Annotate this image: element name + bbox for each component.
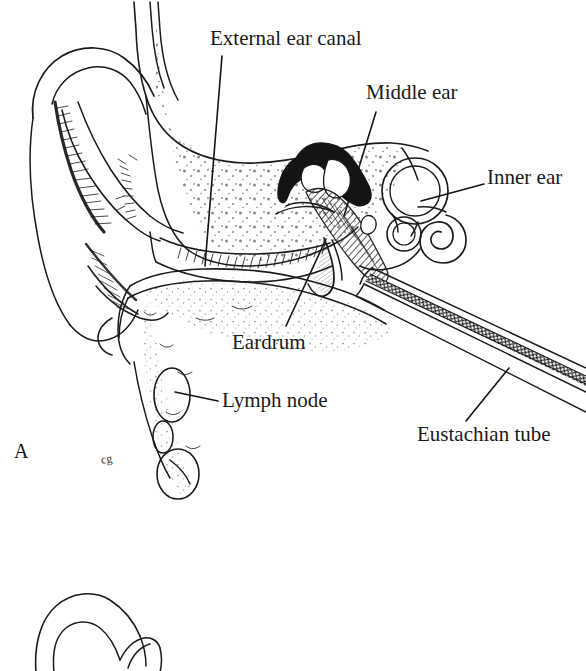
- label-eustachian-tube: Eustachian tube: [417, 424, 551, 445]
- inner-ear-leader: [421, 184, 484, 201]
- eustachian-tube-leader: [466, 368, 509, 421]
- label-external-ear-canal: External ear canal: [210, 28, 362, 49]
- eustachian-tube: [356, 268, 586, 412]
- label-lymph-node: Lymph node: [222, 390, 328, 411]
- second-figure-partial: [36, 594, 162, 671]
- label-eardrum: Eardrum: [232, 332, 305, 353]
- ear-anatomy-figure: External ear canal Middle ear Inner ear …: [0, 0, 586, 671]
- stray-scan-mark: cg: [100, 451, 113, 467]
- mastoid-process: [98, 269, 392, 496]
- label-middle-ear: Middle ear: [366, 82, 458, 103]
- label-inner-ear: Inner ear: [487, 167, 562, 188]
- lymph-node-leader: [175, 392, 218, 401]
- panel-letter-a: A: [14, 440, 28, 463]
